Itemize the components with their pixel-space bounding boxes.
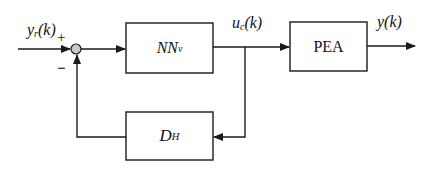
- summing-junction: [71, 44, 81, 54]
- feedback-label-sub: H: [172, 131, 180, 142]
- block-diagram: [0, 0, 432, 171]
- output-signal-arg: (k): [384, 13, 402, 30]
- control-signal-label: uc(k): [232, 15, 262, 32]
- controller-label-sub: v: [178, 43, 182, 54]
- feedback-return-line: [77, 55, 126, 137]
- feedback-branch-line: [214, 47, 245, 137]
- plant-block-label: PEA: [290, 22, 367, 71]
- control-signal-arg: (k): [244, 14, 262, 31]
- output-signal-label: y(k): [377, 14, 402, 30]
- feedback-label-base: D: [160, 126, 172, 146]
- controller-label-base: NN: [157, 39, 178, 57]
- feedback-block-label: DH: [126, 112, 213, 160]
- plus-sign: +: [57, 30, 65, 45]
- input-signal-label: yr(k): [27, 22, 56, 39]
- plant-label-text: PEA: [313, 38, 343, 56]
- input-signal-arg: (k): [38, 21, 56, 38]
- control-signal-base: u: [232, 14, 240, 31]
- minus-sign: −: [57, 61, 66, 76]
- controller-block-label: NNv: [126, 23, 213, 73]
